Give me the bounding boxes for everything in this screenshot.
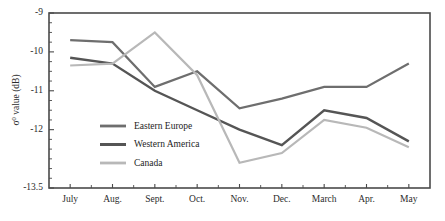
- line-chart: -9-10-11-12-13.5 JulyAug.Sept.Oct.Nov.De…: [0, 0, 445, 221]
- y-axis-title-rest: value (dB): [11, 74, 22, 117]
- x-tick-label: Nov.: [230, 194, 248, 204]
- x-tick-label: Sept.: [145, 194, 164, 204]
- svg-text:σ0 value (dB): σ0 value (dB): [10, 74, 22, 125]
- y-axis-title: σ0 value (dB): [10, 74, 22, 125]
- y-tick-label: -9: [35, 7, 43, 17]
- x-tick-label: Aug.: [103, 194, 122, 204]
- legend-label-eastern-europe: Eastern Europe: [134, 121, 192, 131]
- chart-legend: Eastern EuropeWestern AmericaCanada: [100, 121, 200, 168]
- x-tick-label: Oct.: [189, 194, 205, 204]
- series-line-western-america: [70, 58, 409, 146]
- x-tick-label: May: [400, 194, 418, 204]
- legend-label-western-america: Western America: [134, 139, 200, 149]
- series-line-eastern-europe: [70, 40, 409, 108]
- x-tick-label: Apr.: [358, 194, 375, 204]
- chart-container: -9-10-11-12-13.5 JulyAug.Sept.Oct.Nov.De…: [0, 0, 445, 221]
- x-axis: JulyAug.Sept.Oct.Nov.Dec.MarchApr.May: [62, 184, 418, 204]
- y-tick-label: -11: [31, 85, 44, 95]
- y-tick-label: -12: [30, 124, 43, 134]
- y-tick-label: -13.5: [23, 182, 43, 192]
- x-tick-label: July: [62, 194, 78, 204]
- legend-label-canada: Canada: [134, 158, 163, 168]
- x-tick-label: March: [312, 194, 337, 204]
- x-tick-label: Dec.: [273, 194, 291, 204]
- y-tick-label: -10: [30, 46, 43, 56]
